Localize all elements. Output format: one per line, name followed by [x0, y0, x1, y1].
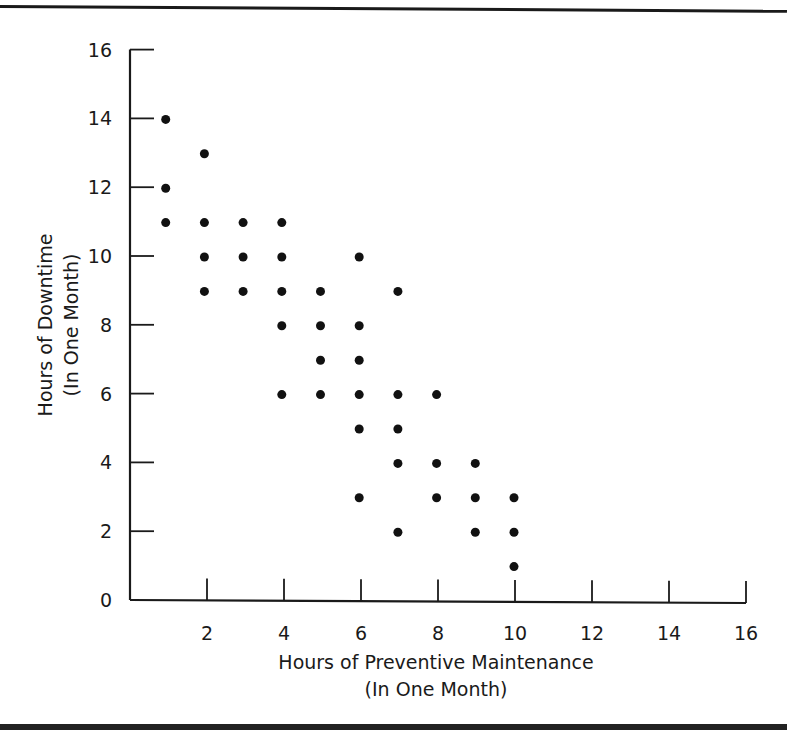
- x-tick-label: 12: [580, 622, 604, 644]
- data-point: [200, 287, 209, 296]
- data-point: [393, 390, 402, 399]
- data-point: [277, 321, 286, 330]
- data-point: [277, 253, 286, 262]
- x-tick-label: 4: [278, 622, 290, 644]
- x-axis-subtitle: (In One Month): [365, 678, 508, 700]
- x-tick-label: 16: [734, 622, 758, 644]
- data-point: [161, 184, 170, 193]
- data-point: [355, 390, 364, 399]
- data-point: [355, 493, 364, 502]
- data-point: [239, 218, 248, 227]
- x-tick-label: 8: [432, 622, 444, 644]
- data-point: [355, 321, 364, 330]
- x-tick-label: 2: [201, 622, 213, 644]
- data-point: [393, 459, 402, 468]
- data-point: [200, 149, 209, 158]
- data-point: [393, 425, 402, 434]
- data-points: [161, 115, 518, 571]
- data-point: [316, 321, 325, 330]
- data-point: [355, 356, 364, 365]
- data-point: [200, 218, 209, 227]
- data-point: [277, 390, 286, 399]
- x-tick-label: 10: [503, 622, 527, 644]
- data-point: [471, 459, 480, 468]
- y-axis-title: Hours of Downtime: [34, 234, 56, 417]
- data-point: [510, 562, 519, 571]
- data-point: [432, 493, 441, 502]
- y-tick-label: 2: [100, 520, 112, 542]
- data-point: [510, 493, 519, 502]
- data-point: [355, 425, 364, 434]
- x-tick-label: 14: [657, 622, 681, 644]
- x-tick-label: 6: [355, 622, 367, 644]
- data-point: [277, 218, 286, 227]
- data-point: [161, 115, 170, 124]
- y-tick-label: 4: [100, 451, 112, 473]
- y-tick-label: 14: [88, 107, 112, 129]
- x-axis-title: Hours of Preventive Maintenance: [278, 651, 593, 673]
- y-tick-label: 10: [88, 245, 112, 267]
- data-point: [393, 287, 402, 296]
- y-tick-label: 16: [88, 39, 112, 61]
- data-point: [471, 528, 480, 537]
- data-point: [316, 390, 325, 399]
- y-tick-label: 8: [100, 314, 112, 336]
- data-point: [200, 253, 209, 262]
- data-point: [510, 528, 519, 537]
- data-point: [355, 253, 364, 262]
- data-point: [471, 493, 480, 502]
- data-point: [239, 287, 248, 296]
- scatter-chart: 0246810121416246810121416 Hours of Preve…: [0, 0, 787, 730]
- data-point: [277, 287, 286, 296]
- axes: 0246810121416246810121416: [88, 39, 758, 644]
- data-point: [239, 253, 248, 262]
- data-point: [316, 287, 325, 296]
- data-point: [432, 459, 441, 468]
- data-point: [161, 218, 170, 227]
- data-point: [432, 390, 441, 399]
- y-tick-label: 0: [100, 589, 112, 611]
- data-point: [393, 528, 402, 537]
- y-tick-label: 6: [100, 383, 112, 405]
- y-axis-subtitle: (In One Month): [60, 254, 82, 397]
- y-tick-label: 12: [88, 176, 112, 198]
- data-point: [316, 356, 325, 365]
